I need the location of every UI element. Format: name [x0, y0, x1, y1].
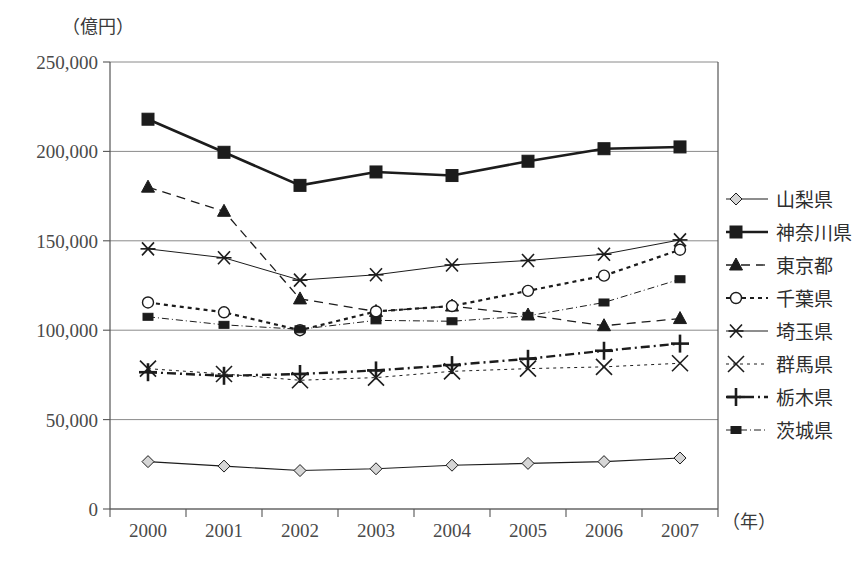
data-point-marker-diamond	[522, 457, 534, 469]
legend-item-1[interactable]: 神奈川県	[726, 223, 852, 244]
data-point-marker-diamond	[218, 460, 230, 472]
x-tick-label: 2005	[509, 520, 547, 541]
data-point-marker-square-small	[447, 318, 457, 325]
gridlines-group	[110, 62, 718, 509]
legend-item-4[interactable]: 埼玉県	[726, 322, 833, 343]
data-point-marker-square-filled	[674, 141, 686, 153]
data-point-marker-square-small	[731, 427, 741, 434]
axes-group	[110, 62, 718, 509]
data-point-marker-square-small	[599, 299, 609, 306]
data-point-marker-diamond	[598, 456, 610, 468]
data-point-marker-diamond	[370, 463, 382, 475]
x-tick-label: 2002	[281, 520, 319, 541]
data-point-marker-square-small	[675, 276, 685, 283]
data-point-marker-asterisk	[597, 248, 612, 261]
chart-figure: 050,000100,000150,000200,000250,000 2000…	[0, 0, 863, 562]
data-point-marker-circle-open	[219, 307, 230, 318]
data-point-marker-asterisk	[217, 251, 232, 264]
data-point-marker-triangle	[142, 180, 155, 192]
data-point-marker-plus	[139, 363, 157, 381]
data-point-marker-circle-open	[523, 285, 534, 296]
data-point-marker-square-filled	[730, 226, 742, 238]
legend-item-6[interactable]: 栃木県	[726, 388, 833, 409]
y-tick-label: 0	[89, 499, 99, 520]
legend-label: 東京都	[776, 256, 833, 277]
y-tick-label: 50,000	[46, 410, 98, 431]
legend-label: 栃木県	[776, 388, 833, 409]
data-point-marker-triangle	[674, 312, 687, 324]
data-point-marker-circle-open	[371, 306, 382, 317]
data-point-marker-asterisk	[141, 242, 156, 255]
data-point-marker-asterisk	[521, 254, 536, 267]
legend-label: 山梨県	[776, 190, 833, 211]
data-point-marker-asterisk	[293, 274, 308, 287]
legend: 山梨県神奈川県東京都千葉県埼玉県群馬県栃木県茨城県	[726, 190, 852, 442]
data-point-marker-plus	[215, 367, 233, 385]
data-point-marker-square-small	[143, 313, 153, 320]
data-point-marker-asterisk	[369, 268, 384, 281]
data-point-marker-square-filled	[142, 113, 154, 125]
data-point-marker-asterisk	[729, 325, 744, 338]
x-tick-label: 2001	[205, 520, 243, 541]
x-tick-label: 2003	[357, 520, 395, 541]
x-axis-unit-label: （年）	[722, 512, 776, 532]
data-point-marker-diamond	[142, 456, 154, 468]
data-point-marker-square-small	[295, 326, 305, 333]
data-point-marker-plus	[519, 350, 537, 368]
legend-label: 茨城県	[776, 421, 833, 442]
legend-item-3[interactable]: 千葉県	[726, 289, 833, 310]
line-chart-canvas: 050,000100,000150,000200,000250,000 2000…	[0, 0, 863, 562]
data-point-marker-square-small	[371, 317, 381, 324]
data-point-marker-square-small	[219, 321, 229, 328]
data-point-marker-circle-open	[447, 301, 458, 312]
data-point-marker-diamond	[674, 452, 686, 464]
x-tick-label: 2006	[585, 520, 623, 541]
legend-item-2[interactable]: 東京都	[726, 256, 833, 277]
data-point-marker-plus	[443, 356, 461, 374]
legend-item-5[interactable]: 群馬県	[726, 355, 833, 376]
data-point-marker-square-filled	[598, 143, 610, 155]
data-point-marker-circle-open	[731, 293, 742, 304]
y-tick-label: 100,000	[36, 320, 98, 341]
data-point-marker-square-filled	[370, 166, 382, 178]
legend-label: 埼玉県	[776, 322, 833, 343]
legend-item-7[interactable]: 茨城県	[726, 421, 833, 442]
x-axis-tick-labels: 20002001200220032004200520062007	[110, 509, 718, 541]
data-point-marker-square-filled	[522, 155, 534, 167]
data-point-marker-square-filled	[294, 179, 306, 191]
data-point-marker-square-small	[523, 312, 533, 319]
data-point-marker-diamond	[294, 465, 306, 477]
y-axis-unit-label: （億円）	[62, 17, 134, 37]
series-5	[140, 355, 688, 388]
x-tick-label: 2007	[661, 520, 699, 541]
y-tick-label: 200,000	[36, 141, 98, 162]
data-point-marker-plus	[291, 365, 309, 383]
data-point-marker-plus	[367, 361, 385, 379]
data-point-marker-circle-open	[599, 270, 610, 281]
legend-label: 千葉県	[776, 289, 833, 310]
series-0	[142, 452, 686, 477]
data-series-group	[139, 113, 689, 476]
data-point-marker-square-filled	[446, 170, 458, 182]
series-1	[142, 113, 686, 191]
y-tick-label: 250,000	[36, 52, 98, 73]
legend-label: 群馬県	[776, 355, 833, 376]
data-point-marker-diamond	[730, 193, 742, 205]
data-point-marker-plus	[727, 388, 745, 406]
y-axis-tick-labels: 050,000100,000150,000200,000250,000	[36, 52, 110, 520]
y-tick-label: 150,000	[36, 231, 98, 252]
data-point-marker-asterisk	[445, 258, 460, 271]
data-point-marker-circle-open	[143, 297, 154, 308]
data-point-marker-plus	[595, 342, 613, 360]
data-point-marker-triangle	[730, 258, 743, 270]
legend-item-0[interactable]: 山梨県	[726, 190, 833, 211]
legend-label: 神奈川県	[776, 223, 852, 244]
x-tick-label: 2004	[433, 520, 472, 541]
data-point-marker-plus	[671, 335, 689, 353]
data-point-marker-diamond	[446, 459, 458, 471]
x-tick-label: 2000	[129, 520, 167, 541]
data-point-marker-square-filled	[218, 146, 230, 158]
data-point-marker-circle-open	[675, 244, 686, 255]
